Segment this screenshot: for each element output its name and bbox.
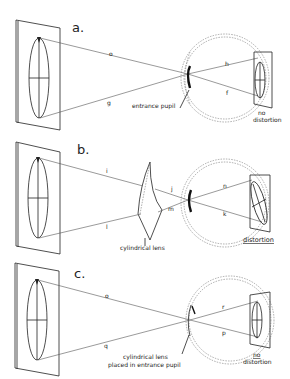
panel-label-b: b. — [77, 142, 89, 157]
result-label-a: no distortion — [253, 109, 282, 123]
svg-text:h: h — [225, 60, 229, 67]
svg-text:r: r — [222, 303, 225, 310]
svg-text:n: n — [223, 182, 227, 189]
svg-text:k: k — [223, 210, 227, 217]
annotation-entrance-pupil: entrance pupil — [132, 102, 176, 110]
svg-text:o: o — [109, 50, 113, 57]
result-label-c2: distortion — [243, 358, 272, 365]
annotation-cylindrical-lens: cylindrical lens — [120, 244, 165, 252]
svg-text:m: m — [168, 205, 174, 212]
panel-label-a: a. — [72, 20, 84, 35]
svg-text:f: f — [226, 89, 229, 96]
panel-label-c: c. — [74, 266, 85, 281]
svg-text:l: l — [106, 223, 108, 230]
optics-diagram: a. o g h f entrance pupil no distortion — [0, 0, 290, 379]
svg-text:j: j — [170, 185, 173, 193]
object-plane-a — [16, 20, 60, 130]
svg-text:i: i — [106, 167, 108, 174]
cylindrical-lens-b — [138, 162, 162, 240]
result-label-b: distortion — [243, 236, 274, 244]
annotation-entrance-pupil-c: placed in entrance pupil — [108, 361, 181, 369]
panel-a: a. o g h f entrance pupil no distortion — [16, 20, 282, 130]
result-label-c1: no — [253, 351, 261, 358]
svg-text:o: o — [105, 292, 109, 299]
svg-text:p: p — [222, 329, 226, 337]
panel-b: b. i l j m n k cylindrical lens distorti… — [16, 142, 274, 254]
svg-text:g: g — [107, 99, 111, 107]
annotation-cylindrical-lens-c: cylindrical lens — [123, 353, 168, 361]
svg-text:q: q — [104, 342, 108, 350]
panel-c: c. o q r p cylindrical lens placed in en… — [15, 263, 274, 376]
